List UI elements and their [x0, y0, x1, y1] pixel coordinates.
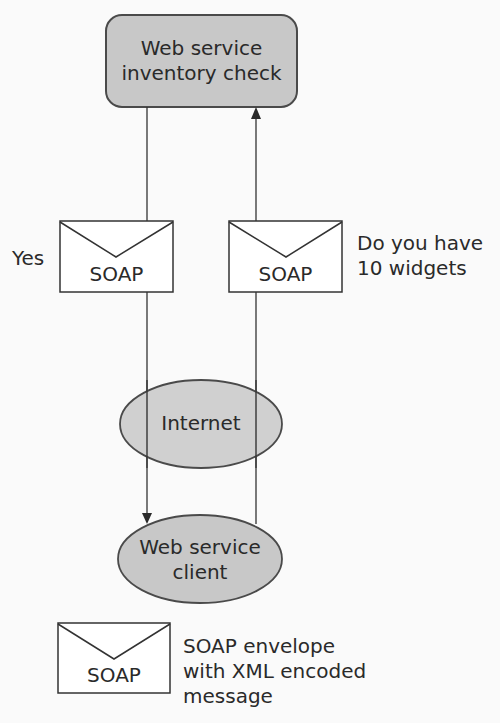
- legend-line3: message: [183, 684, 366, 709]
- client-label-line2: client: [118, 560, 282, 585]
- arrow-down-icon: [142, 513, 152, 524]
- client-label-line1: Web service: [118, 535, 282, 560]
- response-envelope-label: SOAP: [60, 262, 173, 287]
- server-label: Web service inventory check: [106, 36, 297, 86]
- request-envelope-label: SOAP: [229, 262, 342, 287]
- arrow-up-icon: [251, 107, 261, 119]
- request-caption-line1: Do you have: [357, 231, 483, 256]
- legend-line2: with XML encoded: [183, 659, 366, 684]
- legend-envelope-label: SOAP: [58, 663, 170, 688]
- legend-text: SOAP envelope with XML encoded message: [183, 634, 366, 709]
- legend-line1: SOAP envelope: [183, 634, 366, 659]
- client-label: Web service client: [118, 535, 282, 585]
- internet-label: Internet: [120, 411, 282, 436]
- response-caption: Yes: [12, 246, 44, 271]
- diagram-canvas: [0, 0, 500, 723]
- request-caption: Do you have 10 widgets: [357, 231, 483, 281]
- server-label-line2: inventory check: [106, 61, 297, 86]
- request-caption-line2: 10 widgets: [357, 256, 483, 281]
- server-label-line1: Web service: [106, 36, 297, 61]
